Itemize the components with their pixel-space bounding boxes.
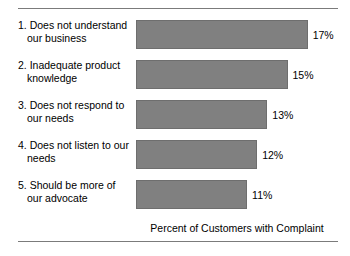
bar-track: 15% [136,60,346,90]
category-label-line2: our needs [18,112,134,125]
category-label-line1: 5. Should be more of [18,179,115,191]
bar-track: 13% [136,100,346,130]
category-label-line2: our business [18,32,134,45]
bar-value-label: 15% [293,69,314,81]
category-label: 5. Should be more of our advocate [18,179,134,205]
bar [136,100,267,129]
bar [136,20,308,49]
category-label-line2: needs [18,152,134,165]
category-label-line2: our advocate [18,192,134,205]
bar [136,60,288,89]
plot-area: 1. Does not understand our business 17% … [0,17,350,222]
bar-chart-figure: 1. Does not understand our business 17% … [0,0,350,256]
category-label: 3. Does not respond to our needs [18,99,134,125]
category-label: 1. Does not understand our business [18,19,134,45]
bar-value-label: 17% [313,29,334,41]
bar-value-label: 11% [252,189,272,201]
bar-track: 11% [136,180,346,210]
bar-track: 17% [136,20,346,50]
bar [136,180,247,209]
category-label-line2: knowledge [18,72,134,85]
bar-row: 3. Does not respond to our needs 13% [0,97,350,137]
bar-row: 1. Does not understand our business 17% [0,17,350,57]
bottom-divider-rule [18,241,338,242]
bar [136,140,257,169]
category-label: 4. Does not listen to our needs [18,139,134,165]
x-axis-title: Percent of Customers with Complaint [136,222,338,235]
bar-row: 2. Inadequate product knowledge 15% [0,57,350,97]
bar-value-label: 13% [272,109,293,121]
bar-row: 5. Should be more of our advocate 11% [0,177,350,217]
category-label-line1: 1. Does not understand [18,19,127,31]
bar-track: 12% [136,140,346,170]
category-label-line1: 3. Does not respond to [18,99,124,111]
category-label-line1: 4. Does not listen to our [18,139,129,151]
bar-value-label: 12% [262,149,283,161]
category-label: 2. Inadequate product knowledge [18,59,134,85]
top-divider-rule [18,8,338,9]
bar-row: 4. Does not listen to our needs 12% [0,137,350,177]
category-label-line1: 2. Inadequate product [18,59,120,71]
